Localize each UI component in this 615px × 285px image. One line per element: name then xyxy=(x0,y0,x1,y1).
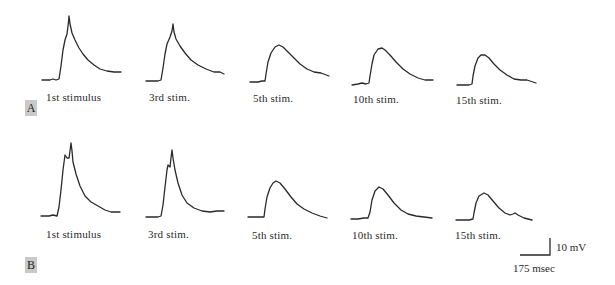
scale-time-label: 175 msec xyxy=(513,262,555,274)
trace-a-15th xyxy=(457,55,536,85)
scale-bar xyxy=(520,238,550,255)
trace-b-3rd xyxy=(146,150,224,217)
label-a-10th: 10th stim. xyxy=(353,93,399,105)
trace-a-3rd xyxy=(146,24,224,81)
label-a-3rd: 3rd stim. xyxy=(149,91,190,103)
trace-b-10th xyxy=(351,187,432,219)
label-b-1st: 1st stimulus xyxy=(46,228,101,240)
figure-canvas xyxy=(0,0,615,285)
panel-label-a: A xyxy=(25,100,37,116)
trace-a-5th xyxy=(250,45,329,82)
label-b-15th: 15th stim. xyxy=(455,229,501,241)
label-b-5th: 5th stim. xyxy=(252,229,292,241)
label-b-3rd: 3rd stim. xyxy=(148,228,189,240)
trace-a-10th xyxy=(352,48,433,85)
scale-voltage-label: 10 mV xyxy=(556,241,586,253)
trace-a-1st xyxy=(42,16,121,80)
label-b-10th: 10th stim. xyxy=(352,229,398,241)
trace-b-15th xyxy=(456,193,532,220)
panel-label-b: B xyxy=(25,257,37,273)
trace-b-1st xyxy=(41,143,120,216)
label-a-5th: 5th stim. xyxy=(253,92,293,104)
label-a-15th: 15th stim. xyxy=(456,94,502,106)
label-a-1st: 1st stimulus xyxy=(46,91,101,103)
trace-b-5th xyxy=(248,181,327,218)
